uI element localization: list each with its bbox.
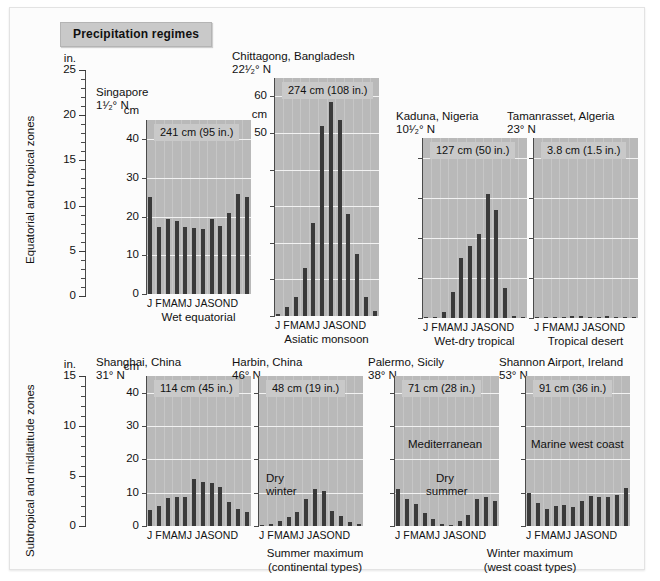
bar bbox=[396, 489, 400, 526]
bar bbox=[493, 501, 497, 526]
bar bbox=[588, 317, 592, 318]
figure-root: Precipitation regimes Equatorial and tro… bbox=[0, 0, 660, 581]
axis-tick bbox=[81, 466, 86, 467]
in-plot-label: Marine west coast bbox=[531, 438, 624, 451]
axis-tick bbox=[81, 416, 86, 417]
bar bbox=[414, 504, 418, 526]
axis-tick bbox=[81, 106, 86, 107]
axis-tick bbox=[81, 436, 86, 437]
value-gridline bbox=[274, 243, 379, 244]
month-gridline bbox=[543, 376, 544, 526]
month-gridline bbox=[578, 376, 579, 526]
axis-tick bbox=[81, 215, 86, 216]
month-gridline bbox=[164, 376, 165, 526]
value-gridline bbox=[422, 278, 527, 279]
cm-axis-tick bbox=[270, 279, 275, 280]
value-gridline bbox=[258, 426, 363, 427]
bar bbox=[175, 221, 179, 294]
cm-axis-unit-label: cm bbox=[124, 360, 139, 372]
month-gridline bbox=[490, 376, 491, 526]
axis-tick bbox=[81, 287, 86, 288]
cm-axis-tick bbox=[270, 170, 275, 171]
cm-axis-tick bbox=[390, 459, 395, 460]
bar bbox=[330, 511, 334, 526]
month-gridline bbox=[234, 120, 235, 294]
bar bbox=[183, 497, 187, 526]
month-gridline bbox=[335, 78, 336, 316]
value-gridline bbox=[274, 133, 379, 134]
axis-tick bbox=[81, 142, 86, 143]
bar bbox=[433, 317, 437, 318]
axis-tick-major bbox=[79, 70, 86, 71]
bar bbox=[597, 317, 601, 318]
month-gridline bbox=[327, 78, 328, 316]
regime-caption: Wet-dry tropical bbox=[422, 335, 527, 347]
cm-axis-spine bbox=[422, 138, 423, 318]
axis-tick-label: 5 bbox=[70, 244, 76, 256]
bar bbox=[440, 524, 444, 526]
month-gridline bbox=[181, 120, 182, 294]
value-gridline bbox=[274, 206, 379, 207]
in-plot-label: Dry bbox=[436, 472, 454, 485]
month-gridline bbox=[475, 138, 476, 318]
month-gridline bbox=[172, 120, 173, 294]
month-gridline bbox=[551, 376, 552, 526]
bar bbox=[466, 515, 470, 526]
axis-tick bbox=[81, 446, 86, 447]
month-gridline bbox=[518, 138, 519, 318]
in-plot-label: winter bbox=[266, 485, 297, 498]
group-caption-summer-maximum: Summer maximum(continental types) bbox=[200, 546, 430, 574]
axis-tick bbox=[81, 496, 86, 497]
row-label-tropical: Equatorial and tropical zones bbox=[24, 80, 36, 300]
cm-axis-tick bbox=[270, 133, 275, 134]
cm-axis-tick bbox=[390, 493, 395, 494]
month-gridline bbox=[225, 120, 226, 294]
bar bbox=[486, 194, 490, 318]
bar bbox=[451, 292, 455, 318]
bar bbox=[615, 495, 619, 526]
bar bbox=[605, 316, 609, 318]
panel-latitude: 31° N bbox=[96, 369, 125, 382]
in-plot-label: summer bbox=[426, 485, 468, 498]
cm-axis-tick bbox=[142, 493, 147, 494]
month-gridline bbox=[595, 376, 596, 526]
bar bbox=[623, 317, 627, 318]
month-gridline bbox=[207, 376, 208, 526]
month-gridline bbox=[234, 376, 235, 526]
cm-axis-tick bbox=[390, 526, 395, 527]
figure-frame: Precipitation regimes Equatorial and tro… bbox=[9, 7, 645, 570]
month-gridline bbox=[284, 376, 285, 526]
annual-total-label: 114 cm (45 in.) bbox=[154, 380, 239, 397]
cm-axis-tick bbox=[521, 493, 526, 494]
cm-axis-tick bbox=[529, 278, 534, 279]
axis-tick-label: 5 bbox=[70, 469, 76, 481]
bar bbox=[245, 512, 249, 526]
bar bbox=[287, 517, 291, 526]
cm-axis-spine bbox=[258, 376, 259, 526]
bar bbox=[423, 513, 427, 526]
month-gridline bbox=[302, 376, 303, 526]
axis-tick-label: 20 bbox=[63, 108, 76, 120]
axis-tick-major bbox=[79, 526, 86, 527]
axis-tick bbox=[81, 79, 86, 80]
month-gridline bbox=[455, 376, 456, 526]
month-gridline bbox=[190, 376, 191, 526]
month-gridline bbox=[309, 78, 310, 316]
annual-total-label: 127 cm (50 in.) bbox=[430, 142, 515, 159]
bar bbox=[218, 226, 222, 294]
cm-axis-tick bbox=[521, 426, 526, 427]
axis-tick-label: 0 bbox=[70, 289, 76, 301]
bar bbox=[192, 479, 196, 526]
month-gridline bbox=[267, 376, 268, 526]
axis-tick-label: 15 bbox=[63, 153, 76, 165]
cm-axis-spine bbox=[146, 120, 147, 294]
month-gridline bbox=[448, 138, 449, 318]
cm-axis-tick bbox=[270, 206, 275, 207]
plot-area: 241 cm (95 in.) bbox=[146, 120, 251, 294]
cm-axis-unit-label: cm bbox=[124, 104, 139, 116]
month-gridline bbox=[429, 376, 430, 526]
bar bbox=[570, 316, 574, 318]
axis-tick-major bbox=[79, 160, 86, 161]
annual-total-label: 241 cm (95 in.) bbox=[154, 124, 239, 141]
annual-total-label: 91 cm (36 in.) bbox=[533, 380, 612, 397]
